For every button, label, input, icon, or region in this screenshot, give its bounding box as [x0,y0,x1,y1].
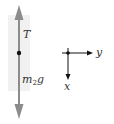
y-axis-label: y [95,46,103,59]
weight-label-g: g [37,73,44,86]
weight-label: m2g [22,73,44,87]
body-point [17,51,21,55]
tension-arrowhead-icon [15,5,24,20]
axes-origin [66,51,70,55]
weight-arrowhead-icon [15,104,24,119]
weight-label-mass: m [22,73,32,86]
tension-label: T [23,28,32,41]
coordinate-axes: y x [62,46,103,93]
free-body-diagram: T m2g y x [0,0,114,124]
y-axis-arrowhead-icon [87,51,93,56]
x-axis-label: x [64,80,71,93]
